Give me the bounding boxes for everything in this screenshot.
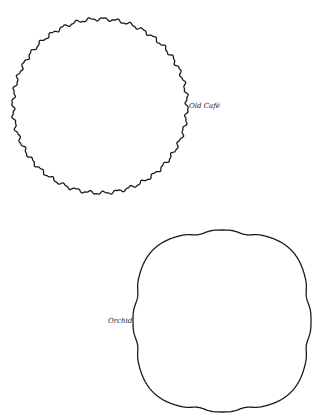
orchid-label: Orchid bbox=[108, 318, 132, 325]
old-cafe-scalloped-circle-shape bbox=[12, 18, 188, 194]
orchid-rounded-square-shape bbox=[133, 230, 311, 412]
shape-canvas bbox=[0, 0, 321, 417]
old-cafe-label: Old Café bbox=[189, 103, 220, 110]
cropped-text-fragment bbox=[146, 0, 150, 1]
